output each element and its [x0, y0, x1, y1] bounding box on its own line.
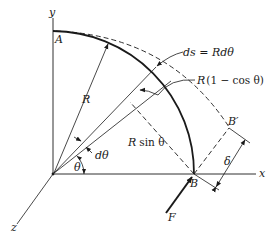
d-theta-arrow-1 — [74, 137, 81, 141]
point-b-prime-label: B′ — [227, 115, 239, 128]
point-a-label: A — [54, 33, 63, 46]
d-theta-arrow-2 — [86, 147, 92, 153]
radial-line-2 — [53, 81, 171, 174]
delta-arrowhead-lower — [216, 181, 221, 187]
delta-extension-bprime — [229, 128, 250, 143]
radius-label: R — [81, 93, 90, 106]
theta-arrowhead — [82, 169, 86, 174]
z-axis-label: z — [10, 221, 17, 234]
theta-arrowhead-top — [77, 156, 82, 161]
arc-element-label: ds = Rdθ — [183, 46, 234, 59]
ds-leader — [157, 52, 183, 66]
point-b-label: B — [189, 177, 198, 190]
curved-beam-diagram: y x z A B B′ R ds = Rdθ R(1 − cos θ) Rsi… — [0, 0, 276, 240]
r-one-minus-cos-leader — [140, 80, 195, 95]
y-axis-label: y — [48, 6, 56, 19]
delta-label: δ — [224, 155, 231, 168]
r-one-minus-cos-label: R(1 − cos θ) — [196, 74, 264, 87]
force-arrow — [166, 177, 192, 213]
theta-label: θ — [74, 161, 81, 174]
origin-point — [52, 173, 55, 176]
diagram-canvas: y x z A B B′ R ds = Rdθ R(1 − cos θ) Rsi… — [0, 0, 276, 240]
x-axis-label: x — [259, 167, 266, 180]
force-label: F — [167, 211, 176, 224]
z-axis — [17, 174, 53, 224]
r-sin-theta-label: Rsin θ — [127, 136, 164, 149]
d-theta-label: dθ — [95, 149, 109, 162]
